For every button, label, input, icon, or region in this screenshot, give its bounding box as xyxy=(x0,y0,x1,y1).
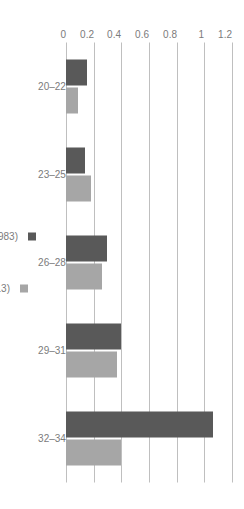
value-axis-tick-label: 1 xyxy=(199,30,205,40)
category-group: 23–25 xyxy=(66,130,232,218)
gridline xyxy=(232,42,233,482)
category-axis-label: 23–25 xyxy=(38,169,66,179)
rotated-chart-stage: 00.20.40.60.811.220–2223–2526–2829–3132–… xyxy=(0,0,244,509)
legend-item[interactable]: Late Boomers (in 1983) xyxy=(0,231,36,241)
bar-late-boomers[interactable] xyxy=(66,411,213,437)
value-axis-tick-label: 0.8 xyxy=(163,30,177,40)
bar-millennials[interactable] xyxy=(66,439,121,465)
category-axis-label: 29–31 xyxy=(38,345,66,355)
legend-item[interactable]: Millennials (in 2013) xyxy=(0,283,28,293)
square-marker-icon xyxy=(28,232,36,240)
bar-millennials[interactable] xyxy=(66,87,78,113)
value-axis-tick-label: 0.4 xyxy=(107,30,121,40)
value-axis-tick-label: 0 xyxy=(60,30,66,40)
plot-area: 00.20.40.60.811.220–2223–2526–2829–3132–… xyxy=(66,42,232,482)
category-group: 26–28 xyxy=(66,218,232,306)
value-axis-tick-label: 0.6 xyxy=(135,30,149,40)
category-axis-label: 20–22 xyxy=(38,81,66,91)
category-group: 20–22 xyxy=(66,42,232,130)
bar-late-boomers[interactable] xyxy=(66,235,108,261)
bar-millennials[interactable] xyxy=(66,175,91,201)
value-axis-tick-label: 1.2 xyxy=(218,30,232,40)
bar-late-boomers[interactable] xyxy=(66,323,121,349)
value-axis-tick-label: 0.2 xyxy=(80,30,94,40)
bar-millennials[interactable] xyxy=(66,263,102,289)
bar-late-boomers[interactable] xyxy=(66,147,85,173)
category-axis-label: 26–28 xyxy=(38,257,66,267)
category-group: 29–31 xyxy=(66,306,232,394)
bar-millennials[interactable] xyxy=(66,351,117,377)
chart-page: 00.20.40.60.811.220–2223–2526–2829–3132–… xyxy=(0,0,244,509)
bar-late-boomers[interactable] xyxy=(66,59,87,85)
chart-legend: Late Boomers (in 1983)Millennials (in 20… xyxy=(0,42,36,482)
square-marker-icon xyxy=(20,284,28,292)
category-group: 32–34 xyxy=(66,394,232,482)
category-axis-label: 32–34 xyxy=(38,433,66,443)
